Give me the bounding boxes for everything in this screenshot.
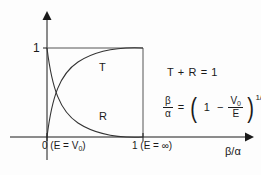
minus-sign: −	[215, 102, 225, 113]
y-axis-arrowhead	[43, 11, 52, 20]
transmission-reflection-figure: 1 T R 0 (E = V0) 1 (E = ∞) β/α T + R = 1…	[0, 0, 261, 175]
bracket-close: )	[247, 96, 254, 120]
beta-symbol: β	[163, 96, 173, 108]
v-subscript-zero: 0	[237, 100, 241, 107]
transmission-curve-label: T	[99, 62, 106, 73]
x-axis-tick-label-zero: 0 (E = V0)	[42, 141, 86, 151]
x-tick-zero-text: 0 (E = V	[42, 140, 78, 151]
v0-over-e-fraction: V0 E	[228, 96, 243, 119]
e-denominator: E	[228, 108, 243, 119]
ratio-formula-annotation: β α = ( 1 − V0 E )1/2	[163, 96, 261, 120]
x-axis-tick-label-one: 1 (E = ∞)	[132, 141, 172, 151]
v0-numerator: V0	[228, 96, 243, 108]
x-tick-zero-paren: )	[82, 140, 85, 151]
transmission-curve	[47, 48, 143, 137]
exponent-one-half: 1/2	[255, 94, 261, 102]
y-axis-tick-label-one: 1	[33, 42, 40, 54]
bracket-open: (	[191, 96, 198, 120]
reflection-curve	[47, 48, 143, 137]
x-tick-zero-subscript: 0	[78, 145, 82, 152]
equals-sign: =	[176, 102, 186, 113]
x-axis-title: β/α	[225, 146, 241, 157]
sum-rule-annotation: T + R = 1	[167, 67, 218, 78]
beta-over-alpha-fraction: β α	[163, 96, 173, 119]
one-term: 1	[202, 102, 212, 113]
alpha-symbol: α	[163, 108, 173, 119]
figure-canvas	[0, 0, 261, 175]
reflection-curve-label: R	[99, 111, 107, 122]
x-axis-arrowhead	[245, 133, 254, 142]
